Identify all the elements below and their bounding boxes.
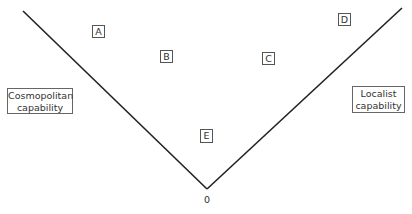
v-diagram: Cosmopolitan capability Localist capabil… <box>0 0 412 214</box>
point-d: D <box>338 13 351 26</box>
point-e-label: E <box>203 130 209 141</box>
localist-label-line1: Localist <box>353 88 404 100</box>
cosmopolitan-capability-label: Cosmopolitan capability <box>7 88 73 114</box>
point-e: E <box>200 129 213 143</box>
point-a: A <box>92 25 105 38</box>
localist-capability-label: Localist capability <box>352 86 405 113</box>
point-a-label: A <box>95 26 102 37</box>
point-b: B <box>160 50 173 63</box>
cosmopolitan-label-line2: capability <box>8 102 72 114</box>
point-d-label: D <box>341 14 348 25</box>
origin-zero-label: 0 <box>201 194 213 205</box>
cosmopolitan-label-line1: Cosmopolitan <box>8 90 72 102</box>
point-c-label: C <box>265 53 272 64</box>
point-c: C <box>262 52 275 65</box>
point-b-label: B <box>163 51 170 62</box>
localist-label-line2: capability <box>353 100 404 112</box>
